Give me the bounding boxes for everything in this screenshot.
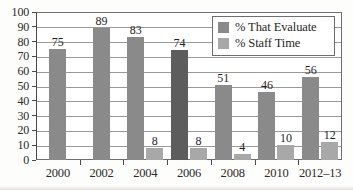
y-tick-label: 50 bbox=[17, 80, 29, 92]
legend-item-that-evaluate: % That Evaluate bbox=[218, 20, 330, 35]
bar[interactable] bbox=[277, 145, 294, 160]
x-tick-mark bbox=[80, 160, 81, 165]
x-tick-label: 2012–13 bbox=[292, 166, 348, 180]
bar-group: 838 bbox=[123, 12, 167, 160]
x-tick-mark bbox=[298, 160, 299, 165]
bar-value-label: 8 bbox=[140, 135, 169, 147]
chart-legend: % That Evaluate % Staff Time bbox=[212, 16, 335, 56]
legend-swatch-icon bbox=[218, 22, 229, 33]
legend-label: % That Evaluate bbox=[235, 21, 317, 34]
x-tick-mark bbox=[167, 160, 168, 165]
bar[interactable] bbox=[321, 142, 338, 160]
bar-value-label: 56 bbox=[296, 64, 325, 76]
bar[interactable] bbox=[93, 28, 110, 160]
bar-value-label: 74 bbox=[165, 37, 194, 49]
y-tick-label: 0 bbox=[23, 154, 29, 166]
y-tick-label: 100 bbox=[12, 6, 29, 18]
bar[interactable] bbox=[146, 148, 163, 160]
bar-value-label: 83 bbox=[121, 24, 150, 36]
y-tick-label: 40 bbox=[17, 95, 29, 107]
bar-group: 75 bbox=[36, 12, 80, 160]
y-tick-label: 10 bbox=[17, 139, 29, 151]
bar-value-label: 4 bbox=[228, 141, 257, 153]
y-tick-label: 30 bbox=[17, 110, 29, 122]
x-tick-mark bbox=[123, 160, 124, 165]
x-axis-ticks bbox=[36, 160, 342, 165]
x-tick-mark bbox=[255, 160, 256, 165]
y-tick-label: 70 bbox=[17, 50, 29, 62]
bar[interactable] bbox=[302, 77, 319, 160]
legend-label: % Staff Time bbox=[235, 37, 300, 50]
y-axis: 0102030405060708090100 bbox=[0, 12, 32, 160]
bar-value-label: 75 bbox=[43, 36, 72, 48]
legend-swatch-icon bbox=[218, 38, 229, 49]
bar[interactable] bbox=[258, 92, 275, 160]
bar-group: 89 bbox=[80, 12, 124, 160]
x-tick-mark bbox=[211, 160, 212, 165]
bar[interactable] bbox=[49, 49, 66, 160]
y-tick-label: 80 bbox=[17, 36, 29, 48]
bar-value-label: 51 bbox=[209, 72, 238, 84]
bar-group: 748 bbox=[167, 12, 211, 160]
page-edge-shadow bbox=[0, 185, 353, 190]
bar-value-label: 10 bbox=[271, 132, 300, 144]
bar[interactable] bbox=[190, 148, 207, 160]
x-axis: 2000200220042006200820102012–13 bbox=[36, 166, 342, 186]
bar-value-label: 89 bbox=[87, 15, 116, 27]
y-tick-label: 60 bbox=[17, 65, 29, 77]
y-tick-label: 20 bbox=[17, 124, 29, 136]
bar-value-label: 12 bbox=[315, 129, 344, 141]
y-tick-label: 90 bbox=[17, 21, 29, 33]
bar-value-label: 8 bbox=[184, 135, 213, 147]
bar-chart: 0102030405060708090100 75898387485144610… bbox=[0, 0, 353, 190]
legend-item-staff-time: % Staff Time bbox=[218, 36, 330, 51]
bar-value-label: 46 bbox=[252, 79, 281, 91]
